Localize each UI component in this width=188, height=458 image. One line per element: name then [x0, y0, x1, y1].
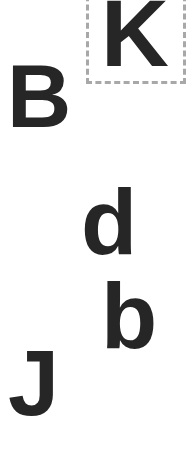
letter-j[interactable]: J	[8, 337, 59, 429]
letter-d[interactable]: d	[81, 176, 137, 268]
letter-k[interactable]: K	[101, 0, 169, 81]
letter-b-lower[interactable]: b	[101, 270, 157, 362]
letter-b-upper[interactable]: B	[7, 52, 71, 141]
